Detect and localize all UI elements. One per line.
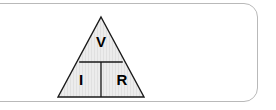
triangle-label-r: R — [117, 71, 128, 88]
ohms-law-triangle-figure: V I R — [55, 14, 147, 100]
triangle-svg: V I R — [55, 14, 147, 100]
triangle-label-i: I — [79, 71, 83, 88]
screenshot-root: V I R — [0, 0, 276, 110]
triangle-label-v: V — [96, 33, 106, 50]
content-panel: V I R — [0, 3, 258, 102]
